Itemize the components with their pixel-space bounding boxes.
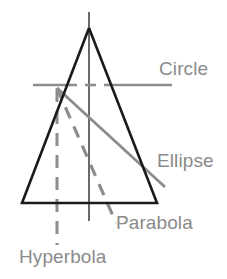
label-hyperbola: Hyperbola <box>19 247 107 266</box>
conic-sections-figure: Circle Ellipse Parabola Hyperbola <box>0 0 227 279</box>
cone-diagram-svg <box>0 0 227 279</box>
label-ellipse: Ellipse <box>157 151 214 170</box>
ellipse-section-line <box>57 88 165 187</box>
label-parabola: Parabola <box>116 213 193 232</box>
label-circle: Circle <box>159 59 208 78</box>
